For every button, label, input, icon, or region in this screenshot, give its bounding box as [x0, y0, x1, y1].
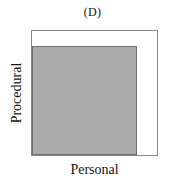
panel-title: (D) — [0, 5, 185, 19]
figure-panel: (D) Procedural Personal — [0, 0, 185, 190]
y-axis-label: Procedural — [4, 30, 30, 156]
plot-frame — [31, 30, 158, 156]
x-axis-label: Personal — [31, 162, 158, 178]
shaded-region — [32, 46, 137, 155]
